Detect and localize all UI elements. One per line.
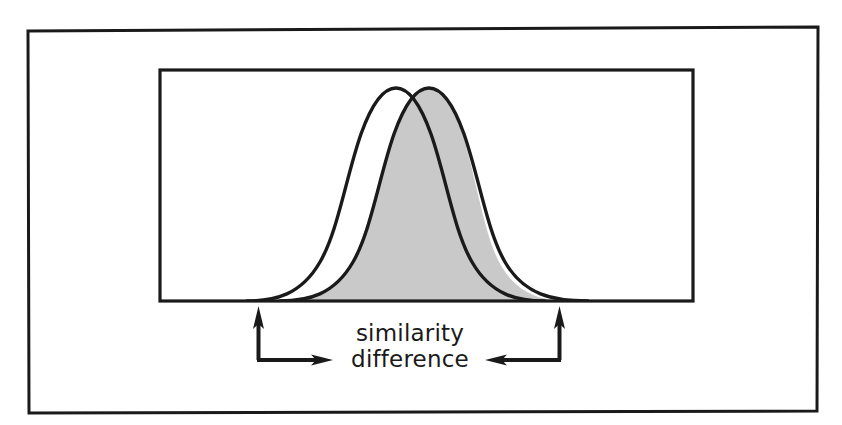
similarity-label: similarity — [356, 320, 464, 346]
figure-root: similarity difference — [0, 0, 842, 425]
figure-svg: similarity difference — [0, 0, 842, 425]
difference-label: difference — [351, 346, 469, 372]
